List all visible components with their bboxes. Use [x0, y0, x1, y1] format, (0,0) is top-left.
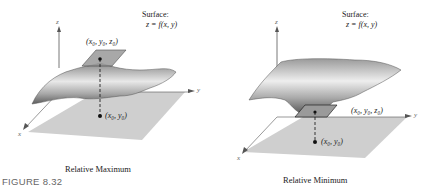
z-axis-label: z: [56, 18, 59, 26]
max-point-3d: [98, 57, 102, 61]
relative-maximum-diagram: Surface: z = f(x, y) z y x (x₀, y₀, z₀) …: [0, 0, 215, 192]
point-3d-label: (x₀, y₀, z₀): [86, 37, 118, 46]
relative-minimum-graphic: [215, 0, 431, 192]
point-3d-label: (x₀, y₀, z₀): [351, 106, 383, 115]
y-axis-label: y: [414, 111, 417, 119]
surface-label: Surface:: [142, 10, 169, 19]
caption-relative-minimum: Relative Minimum: [283, 175, 347, 185]
y-axis-label: y: [197, 86, 200, 94]
point-2d-label: (x₀, y₀): [321, 137, 343, 146]
caption-relative-maximum: Relative Maximum: [65, 164, 131, 174]
x-axis-label: x: [237, 154, 240, 162]
figure-label: FIGURE 8.32: [2, 176, 62, 187]
max-point-2d: [98, 114, 102, 118]
relative-minimum-diagram: Surface: z = f(x, y) z y x (x₀, y₀, z₀) …: [215, 0, 430, 192]
tangent-plane: [82, 50, 126, 66]
min-point-2d: [313, 140, 317, 144]
surface-equation: z = f(x, y): [346, 20, 377, 29]
point-2d-label: (x₀, y₀): [105, 111, 127, 120]
min-point-3d: [313, 110, 316, 113]
z-axis-label: z: [275, 18, 278, 26]
surface-equation: z = f(x, y): [146, 20, 177, 29]
x-axis-label: x: [18, 130, 21, 138]
surface-label: Surface:: [342, 10, 369, 19]
